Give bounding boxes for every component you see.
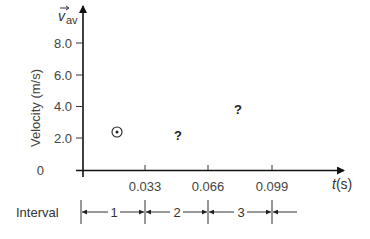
y-tick-4: 4.0 (54, 99, 72, 114)
interval-2-label: 2 (173, 205, 180, 220)
y-tick-8: 8.0 (54, 36, 72, 51)
svg-text:av: av (66, 14, 78, 26)
data-point-interval-2-unknown: ? (174, 128, 182, 143)
x-axis-title: t(s) (332, 176, 352, 192)
y-axis-title: Velocity (m/s) (28, 69, 43, 147)
velocity-chart: 8.0 6.0 4.0 2.0 0 v av Velocity (m/s) 0.… (0, 0, 370, 239)
svg-text:v: v (58, 8, 66, 24)
interval-3-label: 3 (237, 205, 244, 220)
y-axis-symbol: v av (58, 6, 78, 26)
x-ticks (145, 165, 272, 170)
interval-label: Interval (16, 205, 59, 220)
y-tick-2: 2.0 (54, 131, 72, 146)
x-tick-0099: 0.099 (256, 179, 289, 194)
y-tick-6: 6.0 (54, 68, 72, 83)
y-tick-0: 0 (37, 163, 44, 178)
data-point-interval-1 (112, 127, 122, 137)
y-ticks (76, 43, 83, 138)
interval-1-label: 1 (110, 205, 117, 220)
x-tick-0033: 0.033 (129, 179, 162, 194)
x-tick-0066: 0.066 (192, 179, 225, 194)
data-point-interval-3-unknown: ? (234, 102, 242, 117)
x-tick-labels: 0.033 0.066 0.099 (129, 179, 289, 194)
